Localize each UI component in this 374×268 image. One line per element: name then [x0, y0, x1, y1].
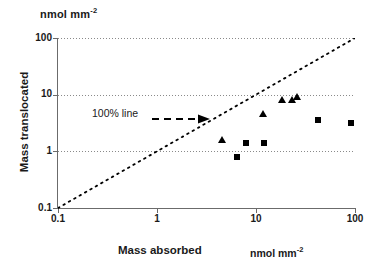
x-axis-unit-label: nmol mm-2 [250, 245, 303, 259]
x-tick-mark-0-1 [58, 208, 59, 213]
y-axis-unit-text: nmol mm [40, 8, 90, 20]
x-axis-unit-exponent: -2 [297, 245, 304, 254]
x-axis-line [57, 208, 355, 209]
y-tick-label-1: 1 [26, 145, 52, 156]
x-tick-mark-100 [355, 208, 356, 213]
data-point-square [234, 154, 240, 160]
data-point-triangle [278, 96, 286, 103]
gridline-y-10 [58, 95, 355, 96]
y-axis-unit-exponent: -2 [90, 6, 97, 15]
gridline-y-100 [58, 38, 355, 39]
y-tick-label-0-1: 0.1 [26, 202, 52, 213]
y-tick-label-100: 100 [26, 32, 52, 43]
x-axis-title: Mass absorbed [118, 244, 202, 256]
x-axis-unit-text: nmol mm [250, 247, 297, 259]
x-tick-mark-10 [256, 208, 257, 213]
y-axis-unit-label: nmol mm-2 [40, 6, 97, 20]
reference-line-100-percent [58, 38, 355, 209]
data-point-square [315, 117, 321, 123]
x-tick-label-1: 1 [144, 213, 170, 224]
data-point-square [261, 140, 267, 146]
data-point-square [348, 120, 354, 126]
data-point-triangle [218, 136, 226, 143]
x-tick-mark-1 [157, 208, 158, 213]
x-tick-label-100: 100 [342, 213, 368, 224]
data-point-square [243, 140, 249, 146]
x-tick-label-0-1: 0.1 [45, 213, 71, 224]
x-tick-label-10: 10 [243, 213, 269, 224]
y-axis-line [57, 38, 58, 209]
data-point-triangle [259, 110, 267, 117]
plot-area [58, 38, 355, 208]
gridline-y-1 [58, 151, 355, 152]
y-tick-label-10: 10 [26, 88, 52, 99]
y-axis-title: Mass translocated [18, 52, 30, 192]
figure-container: nmol mm-2 Mass translocated Mass absorbe… [0, 0, 374, 268]
data-point-triangle [293, 93, 301, 100]
